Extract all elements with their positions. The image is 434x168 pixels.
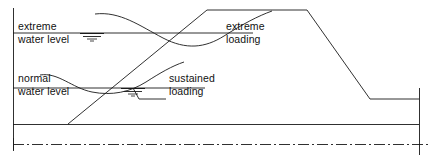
embankment-diagram: extreme water level normal water level e… xyxy=(0,0,434,168)
water-table-icon-normal xyxy=(121,89,145,97)
normal-water-level-label: normal water level xyxy=(18,72,69,97)
normal-water-level-label-line1: normal xyxy=(18,72,51,84)
normal-water-level-label-line2: water level xyxy=(18,85,69,98)
water-table-icon-extreme xyxy=(80,34,104,42)
extreme-water-level-label-line1: extreme xyxy=(18,20,57,32)
sustained-loading-label-line2: loading xyxy=(169,85,215,98)
sustained-loading-label: sustained loading xyxy=(169,72,215,97)
extreme-water-level-label: extreme water level xyxy=(18,20,69,45)
extreme-loading-label-line2: loading xyxy=(226,33,265,46)
extreme-water-level-label-line2: water level xyxy=(18,33,69,46)
sustained-loading-label-line1: sustained xyxy=(169,72,215,84)
berm-notch-line xyxy=(133,88,166,99)
extreme-loading-label: extreme loading xyxy=(226,20,265,45)
downstream-slope-line xyxy=(307,10,370,99)
upstream-slope-line xyxy=(68,10,207,124)
extreme-loading-label-line1: extreme xyxy=(226,20,265,32)
